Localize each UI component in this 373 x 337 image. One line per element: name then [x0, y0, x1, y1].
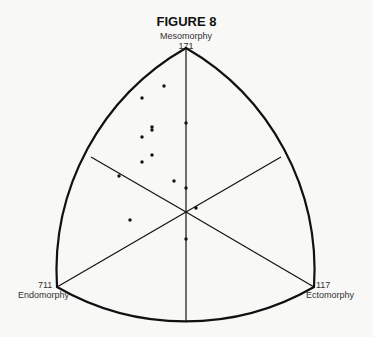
data-point	[172, 179, 175, 182]
data-point	[140, 135, 143, 138]
data-point	[184, 121, 187, 124]
data-point	[184, 237, 187, 240]
axis-upper-left	[91, 157, 186, 212]
data-point	[162, 84, 165, 87]
somatochart	[0, 0, 373, 337]
data-point	[150, 128, 153, 131]
data-point	[184, 186, 187, 189]
data-point	[194, 206, 197, 209]
axis-lower-right	[186, 212, 314, 287]
data-point	[128, 218, 131, 221]
data-point	[117, 174, 120, 177]
axis-upper-right	[186, 157, 281, 212]
axis-lower-left	[57, 212, 186, 287]
data-point	[150, 153, 153, 156]
data-point	[140, 160, 143, 163]
data-point	[140, 96, 143, 99]
data-point	[150, 125, 153, 128]
